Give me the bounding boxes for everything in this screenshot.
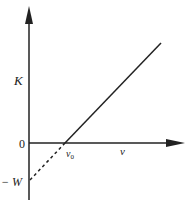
intercept-label: − W [1, 175, 23, 189]
x-axis-label: ν [120, 145, 125, 157]
threshold-label: ν0 [66, 148, 74, 161]
photoelectric-diagram: K 0 − W ν0 ν [0, 0, 191, 207]
x-axis-arrow-icon [166, 139, 185, 147]
extrapolation-dashed-line [30, 143, 65, 180]
y-axis-arrow-icon [25, 6, 33, 24]
origin-label: 0 [19, 137, 25, 151]
kinetic-energy-line [65, 43, 161, 143]
y-axis-label: K [13, 73, 24, 88]
